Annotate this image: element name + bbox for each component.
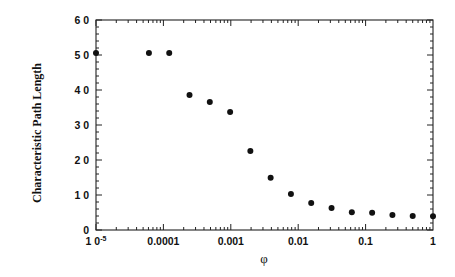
- data-point: [430, 213, 436, 219]
- data-point: [146, 50, 152, 56]
- data-point: [369, 210, 375, 216]
- x-tick-label: 0.001: [218, 235, 244, 247]
- y-tick-label: 5 0: [74, 49, 89, 61]
- y-tick-label: 1 0: [74, 189, 89, 201]
- y-axis-label: Characteristic Path Length: [30, 63, 45, 203]
- y-tick-label: 2 0: [74, 154, 89, 166]
- data-point: [93, 50, 99, 56]
- x-axis-ticks: 1 0-50.00010.0010.010.11: [86, 20, 437, 247]
- x-axis-label: φ: [260, 251, 268, 267]
- data-point: [227, 109, 233, 115]
- data-point: [410, 213, 416, 219]
- x-tick-label: 0.1: [358, 235, 373, 247]
- x-tick-label: 1 0-5: [86, 235, 107, 247]
- x-tick-label: 0.0001: [147, 235, 179, 247]
- y-axis-ticks: 01 02 03 04 05 06 0: [74, 14, 433, 236]
- data-point: [389, 212, 395, 218]
- data-point: [166, 50, 172, 56]
- x-tick-label: 0.01: [288, 235, 309, 247]
- x-tick-label: 1: [430, 235, 436, 247]
- data-point: [187, 92, 193, 98]
- data-point: [308, 200, 314, 206]
- data-point: [329, 205, 335, 211]
- data-points: [93, 50, 436, 219]
- scatter-chart: 1 0-50.00010.0010.010.11 01 02 03 04 05 …: [0, 0, 455, 277]
- y-tick-label: 3 0: [74, 119, 89, 131]
- y-tick-label: 6 0: [74, 14, 89, 26]
- y-tick-label: 4 0: [74, 84, 89, 96]
- data-point: [268, 175, 274, 181]
- data-point: [247, 148, 253, 154]
- y-tick-label: 0: [83, 224, 89, 236]
- data-point: [207, 99, 213, 105]
- data-point: [288, 191, 294, 197]
- data-point: [349, 209, 355, 215]
